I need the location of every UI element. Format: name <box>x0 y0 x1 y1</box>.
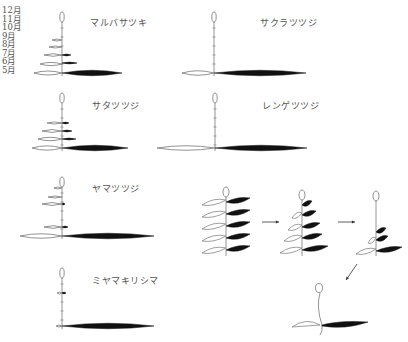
species-label: ミヤマキリシマ <box>92 274 159 287</box>
bud-icon <box>60 12 64 22</box>
bud-icon <box>373 191 379 201</box>
summer-leaf-icon <box>62 62 77 64</box>
spring-leaf-icon <box>368 237 376 243</box>
summer-leaf-icon <box>62 138 76 140</box>
bud-icon <box>60 177 64 187</box>
spring-leaf-icon <box>202 235 226 241</box>
bud-icon <box>212 12 216 22</box>
summer-leaf-icon <box>62 226 68 228</box>
spring-leaf-icon <box>157 146 215 151</box>
spring-leaf-icon <box>288 224 302 230</box>
summer-leaf-icon <box>62 292 66 294</box>
species-label: レンゲツツジ <box>262 99 319 112</box>
summer-leaf-icon <box>376 236 388 242</box>
species-label: マルバサツキ <box>90 16 147 29</box>
summer-leaf-icon <box>62 233 154 239</box>
spring-leaf-icon <box>42 130 62 133</box>
species-label: サタツツジ <box>92 99 140 112</box>
spring-leaf-icon <box>32 146 62 150</box>
summer-leaf-icon <box>322 321 368 327</box>
arrow-head-icon <box>352 220 355 223</box>
spring-leaf-icon <box>57 292 62 294</box>
spring-leaf-icon <box>292 212 302 218</box>
summer-leaf-icon <box>302 201 312 207</box>
spring-leaf-icon <box>52 39 62 41</box>
summer-leaf-icon <box>62 70 122 75</box>
summer-leaf-icon <box>62 203 65 205</box>
bud-icon <box>299 190 305 200</box>
spring-leaf-icon <box>49 46 62 48</box>
spring-leaf-icon <box>34 71 62 75</box>
summer-leaf-icon <box>62 122 69 124</box>
spring-leaf-icon <box>54 187 62 189</box>
spring-leaf-icon <box>182 71 214 76</box>
spring-leaf-icon <box>280 247 302 253</box>
arrow-head-icon <box>346 277 349 280</box>
summer-leaf-icon <box>62 130 72 132</box>
spring-leaf-icon <box>38 137 62 140</box>
summer-leaf-icon <box>62 323 154 329</box>
summer-leaf-icon <box>226 234 250 240</box>
spring-leaf-icon <box>42 203 62 206</box>
spring-leaf-icon <box>40 62 62 65</box>
spring-leaf-icon <box>44 226 62 229</box>
spring-leaf-icon <box>56 325 62 327</box>
bud-icon <box>60 93 64 103</box>
leaf-phenology-diagram <box>0 0 408 342</box>
summer-leaf-icon <box>302 223 320 229</box>
bud-icon <box>60 268 64 278</box>
summer-leaf-icon <box>226 246 250 252</box>
bud-icon <box>223 187 229 197</box>
summer-leaf-icon <box>62 145 128 151</box>
summer-leaf-icon <box>302 211 316 217</box>
summer-leaf-icon <box>215 145 307 151</box>
spring-leaf-icon <box>356 248 376 254</box>
summer-leaf-icon <box>226 210 250 216</box>
spring-leaf-icon <box>48 196 62 198</box>
spring-leaf-icon <box>47 122 62 124</box>
stem <box>318 293 322 335</box>
bud-icon <box>213 93 217 103</box>
summer-leaf-icon <box>376 247 402 253</box>
spring-leaf-icon <box>20 234 62 239</box>
summer-leaf-icon <box>226 198 250 204</box>
arrow-head-icon <box>276 220 279 223</box>
spring-leaf-icon <box>44 54 62 57</box>
spring-leaf-icon <box>202 199 226 205</box>
spring-leaf-icon <box>284 235 302 241</box>
summer-leaf-icon <box>302 246 328 252</box>
summer-leaf-icon <box>376 228 386 234</box>
spring-leaf-icon <box>202 223 226 229</box>
month-label: 5月 <box>2 66 16 75</box>
summer-leaf-icon <box>62 54 71 56</box>
spring-leaf-icon <box>292 321 320 327</box>
spring-leaf-icon <box>202 247 226 253</box>
spring-leaf-icon <box>202 211 226 217</box>
summer-leaf-icon <box>214 70 306 76</box>
species-label: サクラツツジ <box>260 16 317 29</box>
summer-leaf-icon <box>302 234 322 240</box>
species-label: ヤマツツジ <box>92 182 140 195</box>
bud-icon <box>316 284 323 293</box>
summer-leaf-icon <box>226 222 250 228</box>
